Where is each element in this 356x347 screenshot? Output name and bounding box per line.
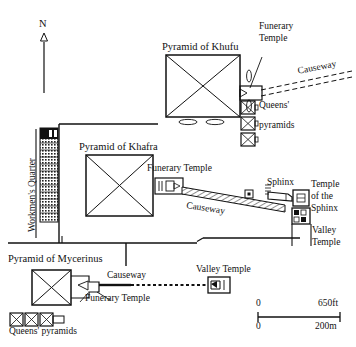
pyramid-of-khafra-label: Pyramid of Khafra	[79, 141, 158, 152]
scale-m-min-label: 0	[256, 322, 261, 332]
causeway-mycerinus-label: Causeway	[107, 271, 146, 281]
funerary-temple-khafra-label: Funerary Temple	[147, 164, 212, 174]
valley-temple-mycerinus-label: Valley Temple	[196, 265, 251, 275]
queens-pyramids-khufu-label-line1: Queens'	[259, 101, 289, 111]
temple-of-the-sphinx-label-line3: Sphinx	[311, 204, 338, 214]
valley-temple-khafra-label-line2: Temple	[312, 238, 340, 248]
workmens-quarter-label: Workmen's Quarter	[28, 158, 38, 232]
scale-ft-max-label: 650ft	[318, 299, 338, 309]
giza-site-map: N Workmen's Quarter Pyramid of Khufu Fun…	[0, 0, 356, 347]
temple-of-the-sphinx-label-line2: of the	[311, 192, 333, 202]
scale-m-max-label: 200m	[315, 322, 337, 332]
funerary-temple-mycerinus-label: Funerary Temple	[85, 294, 150, 304]
funerary-temple-khufu-label-line2: Temple	[259, 34, 287, 44]
temple-of-the-sphinx-label-line1: Temple	[311, 180, 339, 190]
scale-ft-min-label: 0	[256, 299, 261, 309]
pyramid-of-khufu-label: Pyramid of Khufu	[162, 41, 238, 52]
sphinx-label: Sphinx	[267, 178, 294, 188]
funerary-temple-khufu-label-line1: Funerary	[259, 22, 293, 32]
pyramid-of-mycerinus-label: Pyramid of Mycerinus	[8, 253, 103, 264]
north-label: N	[39, 18, 47, 29]
valley-temple-khafra-label-line1: Valley	[312, 226, 336, 236]
workmens-quarter-block	[40, 128, 58, 222]
queens-pyramids-mycerinus-label: Queens' pyramids	[9, 327, 77, 337]
queens-pyramids-khufu-label-line2: pyramids	[259, 121, 294, 131]
